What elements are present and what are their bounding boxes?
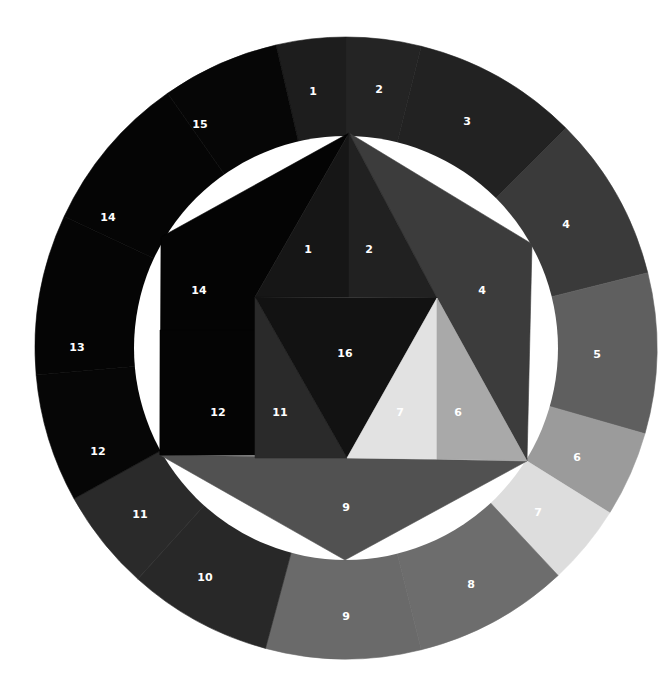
ring-label-8: 8 <box>467 578 475 591</box>
ring-label-9: 9 <box>342 610 350 623</box>
inner-label-16: 16 <box>337 347 353 360</box>
ring-segment-5 <box>548 273 657 434</box>
ring-label-12: 12 <box>90 445 105 458</box>
ring-label-6: 6 <box>573 451 581 464</box>
ring-segment-9 <box>266 551 422 659</box>
inner-region-12 <box>160 330 255 455</box>
ring-label-10: 10 <box>197 571 213 584</box>
inner-label-1: 1 <box>304 243 312 256</box>
inner-label-7: 7 <box>396 406 404 419</box>
ring-label-14: 14 <box>100 211 116 224</box>
color-wheel-diagram: 12345678910111213141591412114121676 <box>0 0 669 676</box>
ring-label-2: 2 <box>375 83 383 96</box>
inner-label-2: 2 <box>365 243 373 256</box>
inner-label-14: 14 <box>191 284 207 297</box>
ring-label-15: 15 <box>192 118 207 131</box>
inner-label-4: 4 <box>478 284 486 297</box>
ring-label-7: 7 <box>534 506 542 519</box>
inner-label-9: 9 <box>342 501 350 514</box>
ring-label-11: 11 <box>132 508 147 521</box>
ring-label-13: 13 <box>69 341 84 354</box>
inner-label-11: 11 <box>272 406 287 419</box>
ring-label-1: 1 <box>309 85 317 98</box>
ring-label-4: 4 <box>562 218 570 231</box>
inner-label-6: 6 <box>454 406 462 419</box>
ring-label-5: 5 <box>593 348 601 361</box>
inner-label-12: 12 <box>210 406 225 419</box>
ring-label-3: 3 <box>463 115 471 128</box>
